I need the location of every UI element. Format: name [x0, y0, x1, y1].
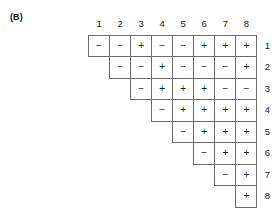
plus-icon: +: [159, 84, 165, 94]
matrix-cell-r5-c6: +: [194, 121, 215, 143]
table-row: −−+−−+++1: [89, 35, 278, 57]
plus-icon: +: [243, 170, 249, 180]
plus-icon: +: [243, 62, 249, 72]
column-header-4: 4: [152, 14, 173, 35]
minus-icon: −: [138, 62, 144, 72]
plus-icon: +: [243, 105, 249, 115]
empty-cell: [110, 100, 131, 122]
empty-cell: [89, 186, 110, 208]
minus-icon: −: [159, 41, 165, 51]
matrix-cell-r6-c8: +: [236, 143, 257, 165]
minus-icon: −: [180, 62, 186, 72]
empty-cell: [131, 143, 152, 165]
panel-label: (B): [10, 12, 23, 22]
column-header-8: 8: [236, 14, 257, 35]
matrix-cell-r4-c6: +: [194, 100, 215, 122]
matrix-cell-r1-c5: −: [173, 35, 194, 57]
matrix-cell-r3-c4: +: [152, 78, 173, 100]
empty-cell: [131, 121, 152, 143]
plus-icon: +: [243, 148, 249, 158]
empty-cell: [89, 121, 110, 143]
minus-icon: −: [159, 105, 165, 115]
plus-icon: +: [222, 41, 228, 51]
matrix-cell-r2-c3: −: [131, 57, 152, 79]
minus-icon: −: [201, 148, 207, 158]
empty-cell: [194, 164, 215, 186]
plus-icon: +: [201, 127, 207, 137]
matrix-cell-r1-c8: +: [236, 35, 257, 57]
empty-cell: [152, 186, 173, 208]
empty-cell: [131, 100, 152, 122]
column-header-1: 1: [89, 14, 110, 35]
plus-icon: +: [201, 105, 207, 115]
minus-icon: −: [117, 62, 123, 72]
empty-cell: [110, 186, 131, 208]
empty-cell: [110, 164, 131, 186]
matrix-cell-r3-c8: −: [236, 78, 257, 100]
plus-icon: +: [180, 84, 186, 94]
minus-icon: −: [201, 62, 207, 72]
matrix-cell-r2-c7: −: [215, 57, 236, 79]
table-row: −+++5: [89, 121, 278, 143]
matrix-cell-r2-c6: −: [194, 57, 215, 79]
table-row: −+7: [89, 164, 278, 186]
empty-cell: [152, 143, 173, 165]
empty-cell: [89, 57, 110, 79]
empty-cell: [89, 78, 110, 100]
matrix-cell-r2-c5: −: [173, 57, 194, 79]
header-corner-spacer: [257, 14, 278, 35]
matrix-cell-r4-c4: −: [152, 100, 173, 122]
matrix-cell-r3-c3: −: [131, 78, 152, 100]
matrix-cell-r1-c3: +: [131, 35, 152, 57]
table-row: −+++−−3: [89, 78, 278, 100]
row-label-7: 7: [257, 164, 278, 186]
table-row: −−+−−−+2: [89, 57, 278, 79]
column-header-2: 2: [110, 14, 131, 35]
matrix-cell-r1-c6: +: [194, 35, 215, 57]
row-label-5: 5: [257, 121, 278, 143]
matrix-header: 12345678: [89, 14, 278, 35]
matrix-cell-r2-c8: +: [236, 57, 257, 79]
plus-icon: +: [222, 127, 228, 137]
empty-cell: [89, 143, 110, 165]
matrix-cell-r8-c8: +: [236, 186, 257, 208]
matrix-cell-r6-c6: −: [194, 143, 215, 165]
column-header-7: 7: [215, 14, 236, 35]
empty-cell: [152, 164, 173, 186]
matrix-cell-r6-c7: +: [215, 143, 236, 165]
empty-cell: [131, 186, 152, 208]
empty-cell: [173, 164, 194, 186]
matrix-cell-r3-c6: +: [194, 78, 215, 100]
triangular-matrix-figure: 12345678 −−+−−+++1−−+−−−+2−+++−−3−++++4−…: [88, 14, 278, 208]
row-label-4: 4: [257, 100, 278, 122]
plus-icon: +: [201, 41, 207, 51]
table-row: −++++4: [89, 100, 278, 122]
minus-icon: −: [138, 84, 144, 94]
plus-icon: +: [243, 127, 249, 137]
row-label-1: 1: [257, 35, 278, 57]
minus-icon: −: [222, 62, 228, 72]
empty-cell: [131, 164, 152, 186]
matrix-cell-r4-c8: +: [236, 100, 257, 122]
row-label-3: 3: [257, 78, 278, 100]
matrix-cell-r5-c8: +: [236, 121, 257, 143]
column-header-5: 5: [173, 14, 194, 35]
table-row: −++6: [89, 143, 278, 165]
matrix-cell-r1-c1: −: [89, 35, 110, 57]
matrix-table: 12345678 −−+−−+++1−−+−−−+2−+++−−3−++++4−…: [88, 14, 278, 208]
minus-icon: −: [222, 170, 228, 180]
matrix-cell-r1-c7: +: [215, 35, 236, 57]
plus-icon: +: [159, 62, 165, 72]
empty-cell: [110, 143, 131, 165]
row-label-2: 2: [257, 57, 278, 79]
empty-cell: [173, 186, 194, 208]
minus-icon: −: [96, 41, 102, 51]
plus-icon: +: [222, 148, 228, 158]
minus-icon: −: [222, 84, 228, 94]
plus-icon: +: [180, 105, 186, 115]
matrix-cell-r1-c2: −: [110, 35, 131, 57]
plus-icon: +: [243, 191, 249, 201]
empty-cell: [173, 143, 194, 165]
empty-cell: [194, 186, 215, 208]
plus-icon: +: [138, 41, 144, 51]
